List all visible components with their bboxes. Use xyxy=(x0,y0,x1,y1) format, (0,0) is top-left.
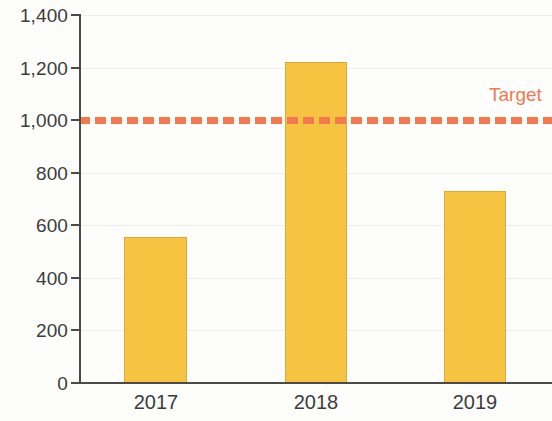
y-tick-0 xyxy=(71,382,80,384)
chart-figure: Target 1,400 1,200 1,000 800 600 400 200… xyxy=(0,0,552,421)
y-tick-1200 xyxy=(71,67,80,69)
y-tick-800 xyxy=(71,172,80,174)
y-axis-label-800: 800 xyxy=(2,164,68,183)
y-tick-1000 xyxy=(71,119,80,121)
y-axis-label-0: 0 xyxy=(2,374,68,393)
target-reference-line xyxy=(79,117,552,124)
x-axis-label-2018: 2018 xyxy=(294,392,339,412)
x-axis-label-2019: 2019 xyxy=(453,392,498,412)
y-tick-400 xyxy=(71,277,80,279)
y-axis-label-1000: 1,000 xyxy=(2,111,68,130)
target-label: Target xyxy=(489,85,542,104)
y-tick-200 xyxy=(71,329,80,331)
y-axis-label-200: 200 xyxy=(2,321,68,340)
bar-2018 xyxy=(285,62,347,383)
y-axis-label-1400: 1,400 xyxy=(2,6,68,25)
y-axis-label-1200: 1,200 xyxy=(2,59,68,78)
y-axis-label-600: 600 xyxy=(2,216,68,235)
bar-2017 xyxy=(124,237,187,383)
x-axis-line xyxy=(79,382,552,384)
y-tick-600 xyxy=(71,224,80,226)
x-axis-label-2017: 2017 xyxy=(134,392,179,412)
y-axis-label-400: 400 xyxy=(2,269,68,288)
y-axis-labels: 1,400 1,200 1,000 800 600 400 200 0 xyxy=(0,0,68,421)
bar-2019 xyxy=(444,191,506,383)
gridline-1400 xyxy=(79,15,552,16)
y-tick-1400 xyxy=(71,14,80,16)
